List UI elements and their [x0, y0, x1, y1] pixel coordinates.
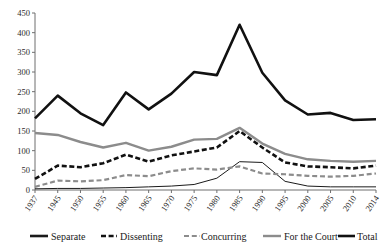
series-line-concurring — [35, 166, 376, 186]
data-series-group — [35, 25, 376, 189]
x-axis-tick-label: 1975 — [181, 193, 199, 213]
x-axis-tick-label: 2014 — [363, 193, 381, 213]
chart-container: 050100150200250300350400450 193719451950… — [0, 0, 381, 248]
x-axis-tick-label: 1990 — [250, 193, 268, 213]
chart-legend: SeparateDissentingConcurringFor the Cour… — [30, 231, 378, 242]
series-line-for-the-court — [35, 128, 376, 162]
x-axis-tick-label: 1955 — [90, 193, 108, 213]
legend-label-total: Total — [357, 231, 378, 242]
x-axis-tick-label: 1980 — [204, 193, 222, 213]
x-axis-tick-label: 1960 — [113, 193, 131, 213]
x-axis-tick-label: 1995 — [272, 193, 290, 213]
x-axis-tick-label: 1985 — [227, 193, 245, 213]
legend-label-dissenting: Dissenting — [120, 231, 163, 242]
x-axis-tick-label: 2000 — [295, 193, 313, 213]
y-axis-tick-label: 200 — [17, 106, 30, 116]
y-axis-tick-label: 300 — [17, 67, 30, 77]
y-axis-tick-label: 150 — [17, 126, 30, 136]
y-axis: 050100150200250300350400450 — [17, 8, 35, 195]
y-axis-tick-label: 0 — [26, 185, 30, 195]
x-axis-tick-label: 1945 — [45, 193, 63, 213]
x-axis-tick-label: 1970 — [159, 193, 177, 213]
y-axis-tick-label: 100 — [17, 146, 30, 156]
y-axis-tick-label: 50 — [22, 165, 31, 175]
line-chart: 050100150200250300350400450 193719451950… — [0, 0, 381, 248]
x-axis: 1937194519501955196019651970197519801985… — [22, 190, 381, 213]
y-axis-tick-label: 450 — [17, 8, 30, 18]
x-axis-tick-label: 2010 — [340, 193, 358, 213]
x-axis-tick-label: 1965 — [136, 193, 154, 213]
y-axis-tick-label: 250 — [17, 87, 30, 97]
legend-label-concurring: Concurring — [201, 231, 247, 242]
x-axis-tick-label: 1937 — [22, 193, 40, 213]
x-axis-tick-label: 1950 — [68, 193, 86, 213]
legend-label-separate: Separate — [51, 231, 86, 242]
y-axis-tick-label: 350 — [17, 47, 30, 57]
x-axis-tick-label: 2005 — [318, 193, 336, 213]
legend-label-for-the-court: For the Court — [284, 231, 338, 242]
y-axis-tick-label: 400 — [17, 28, 30, 38]
series-line-total — [35, 25, 376, 125]
